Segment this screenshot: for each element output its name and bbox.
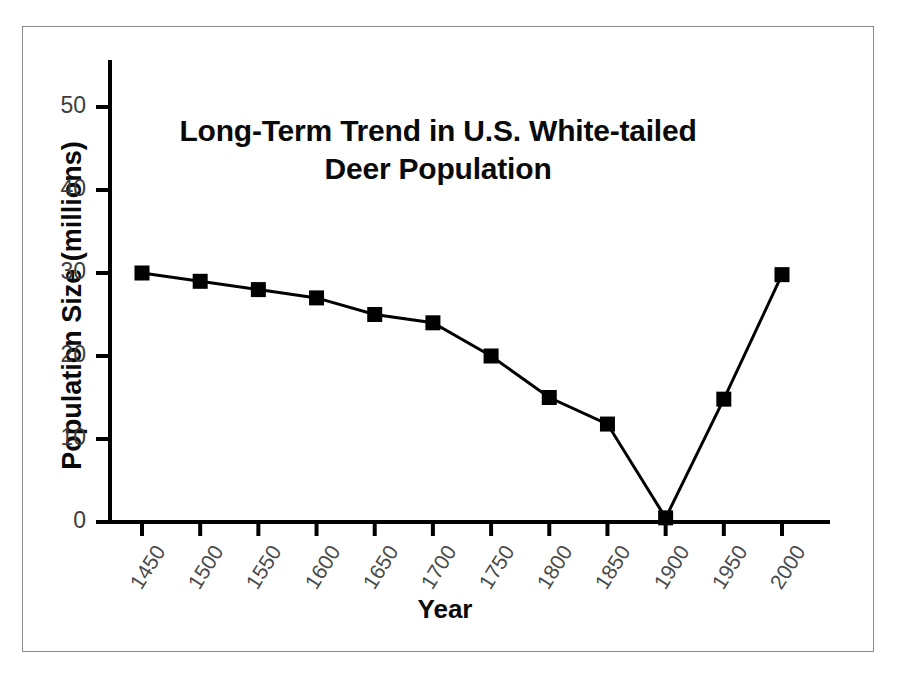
data-point-marker [716,392,731,407]
data-point-marker [542,390,557,405]
y-axis-tick-label: 0 [36,507,86,534]
deer-population-chart: Long-Term Trend in U.S. White-tailed Dee… [0,0,898,679]
data-point-marker [484,349,499,364]
x-axis-ticks [142,522,782,536]
data-series-line [142,273,782,518]
data-point-marker [658,510,673,525]
chart-title-line-1: Long-Term Trend in U.S. White-tailed [128,112,748,150]
data-point-marker [309,290,324,305]
chart-title-line-2: Deer Population [128,150,748,188]
data-point-marker [251,282,266,297]
data-point-marker [367,307,382,322]
y-axis-ticks [96,107,110,522]
y-axis-tick-label: 30 [36,258,86,285]
y-axis-tick-label: 40 [36,175,86,202]
y-axis-title: Population Size (millions) [57,96,88,516]
data-point-marker [193,274,208,289]
y-axis-tick-label: 10 [36,424,86,451]
data-point-marker [775,267,790,282]
y-axis-tick-label: 50 [36,92,86,119]
chart-title: Long-Term Trend in U.S. White-tailed Dee… [128,112,748,189]
y-axis-tick-label: 20 [36,341,86,368]
data-point-marker [600,417,615,432]
data-point-marker [425,315,440,330]
data-point-marker [135,266,150,281]
data-series-markers [135,266,790,526]
